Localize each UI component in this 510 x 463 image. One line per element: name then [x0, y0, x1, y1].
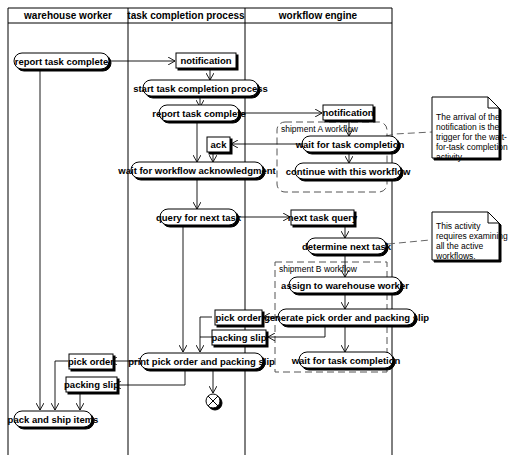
svg-text:notification: notification [180, 55, 231, 66]
svg-text:continue with this workflow: continue with this workflow [286, 166, 411, 177]
object-notification-2[interactable]: notification [322, 105, 373, 120]
object-pick-order-1[interactable]: pick order [215, 310, 262, 325]
svg-text:The arrival of the: The arrival of the [436, 112, 500, 122]
svg-text:assign to warehouse worker: assign to warehouse worker [281, 280, 409, 291]
svg-text:workflows.: workflows. [435, 251, 476, 261]
object-pick-order-2[interactable]: pick order [68, 354, 114, 369]
activity-determine-next-task[interactable]: determine next task [302, 238, 392, 254]
object-packing-slip-2[interactable]: packing slip [64, 377, 119, 392]
svg-text:report task complete: report task complete [15, 56, 108, 67]
svg-text:next task query: next task query [288, 212, 358, 223]
svg-text:shipment A workflow: shipment A workflow [281, 124, 359, 134]
lane-header-workflow-engine: workflow engine [278, 10, 358, 21]
activity-generate-pick-order-and-packing-slip[interactable]: generate pick order and packing slip [264, 309, 429, 325]
activity-query-for-next-task[interactable]: query for next task [156, 209, 242, 225]
note-examine-workflows: This activity requires examining all the… [432, 212, 508, 261]
activity-wait-for-task-completion-b[interactable]: wait for task completion [291, 352, 401, 368]
svg-text:pick order: pick order [216, 312, 262, 323]
activity-assign-to-warehouse-worker[interactable]: assign to warehouse worker [281, 277, 409, 293]
activity-wait-for-task-completion-a[interactable]: wait for task completion [295, 136, 405, 152]
activity-report-task-complete[interactable]: report task complete [152, 105, 245, 121]
svg-text:determine next task: determine next task [302, 241, 392, 252]
region-shipment-a: shipment A workflow [277, 122, 387, 192]
svg-text:notification: notification [322, 107, 373, 118]
svg-text:print pick order and packing s: print pick order and packing slip [128, 356, 275, 367]
flow-final-node [206, 394, 220, 408]
svg-text:start task completion process: start task completion process [133, 83, 268, 94]
object-next-task-query[interactable]: next task query [288, 210, 358, 225]
activity-pack-and-ship-items[interactable]: pack and ship items [8, 411, 99, 427]
svg-text:notification is the: notification is the [436, 122, 500, 132]
svg-text:pack and ship items: pack and ship items [8, 414, 99, 425]
svg-text:wait for workflow acknowledgme: wait for workflow acknowledgment [117, 165, 276, 176]
note-notification-trigger: The arrival of the notification is the t… [432, 97, 508, 162]
activity-start-task-completion-process[interactable]: start task completion process [133, 80, 268, 96]
svg-text:activity.: activity. [436, 152, 464, 162]
lane-header-task-completion-process: task completion process [127, 10, 245, 21]
svg-text:packing slip: packing slip [64, 379, 119, 390]
activity-report-task-complete-worker[interactable]: report task complete [14, 53, 109, 69]
object-ack[interactable]: ack [207, 137, 230, 152]
svg-text:query for next task: query for next task [156, 212, 242, 223]
svg-text:This activity: This activity [436, 221, 481, 231]
svg-text:for-task completion: for-task completion [436, 142, 508, 152]
svg-text:wait for task completion: wait for task completion [295, 139, 405, 150]
svg-text:shipment B workflow: shipment B workflow [279, 264, 358, 274]
svg-text:ack: ack [211, 139, 228, 150]
svg-text:wait for task completion: wait for task completion [291, 355, 401, 366]
svg-text:all the active: all the active [436, 241, 484, 251]
svg-text:packing slip: packing slip [212, 332, 267, 343]
svg-text:generate pick order and packin: generate pick order and packing slip [264, 312, 429, 323]
svg-text:requires examining: requires examining [436, 231, 508, 241]
object-packing-slip-1[interactable]: packing slip [212, 330, 267, 345]
svg-text:trigger for the wait-: trigger for the wait- [436, 132, 507, 142]
object-notification-1[interactable]: notification [176, 53, 236, 68]
svg-text:pick order: pick order [68, 356, 114, 367]
svg-text:report task complete: report task complete [152, 108, 245, 119]
lane-header-warehouse-worker: warehouse worker [23, 10, 112, 21]
activity-wait-for-workflow-acknowledgment[interactable]: wait for workflow acknowledgment [117, 162, 276, 178]
activity-continue-with-this-workflow[interactable]: continue with this workflow [286, 163, 411, 179]
activity-diagram: warehouse worker task completion process… [0, 0, 510, 463]
activity-print-pick-order-and-packing-slip[interactable]: print pick order and packing slip [128, 353, 275, 369]
